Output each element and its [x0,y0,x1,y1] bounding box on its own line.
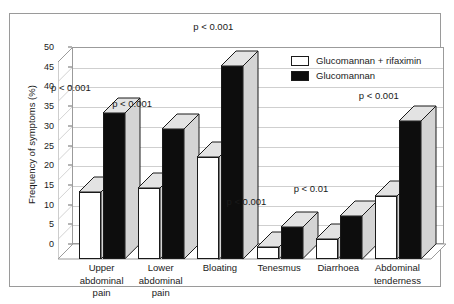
chart-legend: Glucomannan + rifaximin Glucomannan [291,54,421,84]
category-label-line: tenderness [363,275,432,288]
legend-swatch-black-icon [291,71,309,81]
y-tick-label: 35 [44,101,54,111]
category-label-line: Abdominal [363,262,432,275]
y-tick-label: 5 [49,219,54,229]
legend-item: Glucomannan + rifaximin [291,54,421,67]
p-value-annotation: p < 0.001 [227,196,267,207]
legend-swatch-white-icon [291,56,309,66]
legend-label: Glucomannan [316,70,375,81]
category-label-line: abdominal [126,275,195,288]
category-label-line: pain [126,287,195,300]
y-tick-label: 50 [44,42,54,52]
y-axis-title: Frequency of symptoms (%) [26,50,37,240]
y-tick-label: 10 [44,200,54,210]
y-tick-label: 25 [44,141,54,151]
p-value-annotation: p < 0.001 [359,90,399,101]
figure-frame: Frequency of symptoms (%) [9,13,441,287]
p-value-annotation: p < 0.01 [294,183,329,194]
y-tick-label: 0 [49,239,54,249]
y-tick-label: 20 [44,160,54,170]
p-value-annotation: p < 0.001 [112,98,152,109]
category-labels-layer: UpperabdominalpainLowerabdominalpainBloa… [58,262,446,302]
legend-label: Glucomannan + rifaximin [316,55,421,66]
y-tick-label: 45 [44,62,54,72]
p-value-annotation: p < 0.001 [193,21,233,32]
y-tick-label: 15 [44,180,54,190]
legend-item: Glucomannan [291,69,421,82]
p-value-annotation: p < 0.001 [51,82,91,93]
x-axis-category-label: Abdominaltenderness [363,262,432,287]
y-tick-label: 30 [44,121,54,131]
chart-figure: Frequency of symptoms (%) [0,0,454,304]
